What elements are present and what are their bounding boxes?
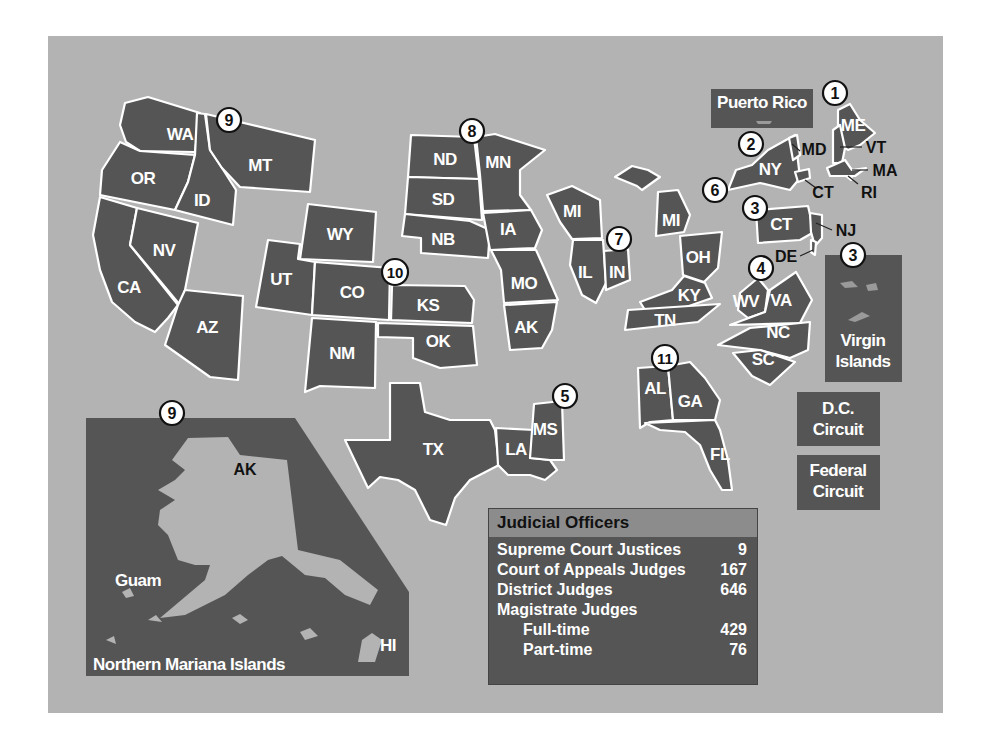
label-pa: CT	[770, 215, 793, 234]
table-title: Judicial Officers	[489, 509, 757, 537]
state-ga[interactable]	[668, 362, 720, 420]
circuit-badge-10[interactable]: 10	[382, 259, 408, 285]
circuit-number: 10	[387, 264, 404, 281]
circuit-badge-1[interactable]: 1	[823, 81, 847, 105]
circuit-badge-5[interactable]: 5	[553, 384, 577, 408]
label-va: VA	[770, 291, 792, 310]
label-oh: OH	[686, 248, 711, 267]
label-or: OR	[131, 169, 156, 188]
table-row: Part-time 76	[489, 640, 757, 660]
table-row: Full-time 429	[489, 620, 757, 640]
label-nd: ND	[433, 150, 457, 169]
state-de[interactable]	[811, 240, 816, 255]
label-ri: RI	[861, 184, 877, 201]
label-ga: GA	[678, 392, 703, 411]
label-tn: TN	[654, 311, 676, 330]
label-id: ID	[194, 191, 210, 210]
circuit-number: 3	[849, 247, 858, 264]
row-label: Court of Appeals Judges	[497, 560, 686, 580]
circuit-5	[345, 383, 564, 525]
row-value: 167	[720, 560, 747, 580]
table-row: Court of Appeals Judges 167	[489, 560, 757, 580]
row-label: Full-time	[497, 620, 590, 640]
label-federal-line2: Circuit	[813, 482, 864, 501]
label-nb: NB	[431, 230, 455, 249]
label-al: AL	[644, 379, 666, 398]
label-virgin: Virgin	[841, 331, 886, 350]
state-mn[interactable]	[476, 134, 545, 211]
table-row: Magistrate Judges	[489, 600, 757, 620]
circuit-number: 4	[757, 260, 766, 277]
label-ia: IA	[500, 220, 516, 239]
judicial-officers-table: Judicial Officers Supreme Court Justices…	[488, 508, 758, 685]
row-value: 429	[720, 620, 747, 640]
label-nj: NJ	[836, 222, 856, 239]
row-label: Supreme Court Justices	[497, 540, 681, 560]
label-ky: KY	[678, 286, 702, 305]
row-value: 646	[720, 580, 747, 600]
label-la: LA	[505, 440, 527, 459]
row-label: Magistrate Judges	[497, 600, 637, 620]
label-mi: MI	[662, 211, 680, 230]
label-co: CO	[340, 283, 365, 302]
label-md: MD	[802, 141, 827, 158]
row-label: Part-time	[497, 640, 592, 660]
label-wi: MI	[563, 202, 581, 221]
label-nv: NV	[153, 241, 177, 260]
label-sc: SC	[752, 350, 775, 369]
circuit-badge-11[interactable]: 11	[652, 345, 678, 371]
label-hi: HI	[380, 636, 396, 655]
label-mn: MN	[485, 153, 511, 172]
label-az: AZ	[196, 318, 218, 337]
circuit-badge-4[interactable]: 4	[749, 256, 773, 280]
label-wa: WA	[167, 125, 194, 144]
circuit-badge-8[interactable]: 8	[460, 119, 484, 143]
label-ak: AK	[233, 461, 257, 478]
label-de: DE	[775, 248, 798, 265]
circuit-badge-9-inset[interactable]: 9	[160, 401, 184, 425]
label-tx: TX	[423, 440, 445, 459]
label-in: IN	[609, 263, 625, 282]
circuit-badge-9[interactable]: 9	[217, 108, 241, 132]
label-guam: Guam	[115, 571, 162, 590]
label-ar: AK	[514, 318, 539, 337]
label-federal-line1: Federal	[810, 461, 867, 480]
circuit-number: 9	[225, 112, 234, 129]
label-ma: MA	[873, 162, 898, 179]
state-ct-2[interactable]	[795, 169, 810, 182]
label-ok: OK	[426, 332, 452, 351]
label-ct: CT	[812, 184, 834, 201]
label-dc-line2: Circuit	[813, 420, 864, 439]
circuit-badge-7[interactable]: 7	[607, 227, 631, 251]
row-value: 76	[729, 640, 747, 660]
label-wy: WY	[327, 225, 355, 244]
row-label: District Judges	[497, 580, 613, 600]
circuit-number: 2	[747, 136, 756, 153]
label-ca: CA	[117, 278, 141, 297]
label-nm: NM	[329, 344, 355, 363]
circuit-number: 7	[615, 231, 624, 248]
label-vt: VT	[866, 139, 887, 156]
label-ut: UT	[270, 270, 293, 289]
circuit-number: 9	[168, 405, 177, 422]
label-ny: NY	[759, 160, 783, 179]
circuit-9-mainland	[93, 97, 315, 380]
label-ks: KS	[417, 296, 440, 315]
circuit-badge-6[interactable]: 6	[703, 178, 727, 202]
label-puerto-rico: Puerto Rico	[717, 93, 807, 112]
circuit-number: 8	[468, 123, 477, 140]
table-row: Supreme Court Justices 9	[489, 540, 757, 560]
label-sd: SD	[432, 190, 455, 209]
label-mt: MT	[248, 156, 273, 175]
state-mi-upper[interactable]	[615, 166, 660, 190]
label-nc: NC	[766, 323, 790, 342]
label-nmi: Northern Mariana Islands	[93, 655, 285, 674]
table-row: District Judges 646	[489, 580, 757, 600]
label-il: IL	[578, 263, 592, 282]
label-wv: WV	[733, 292, 761, 311]
circuit-badge-3-virgin-islands[interactable]: 3	[841, 243, 865, 267]
circuit-badge-2[interactable]: 2	[739, 132, 763, 156]
circuit-number: 1	[831, 85, 840, 102]
label-mo: MO	[511, 274, 538, 293]
circuit-badge-3[interactable]: 3	[743, 196, 767, 220]
